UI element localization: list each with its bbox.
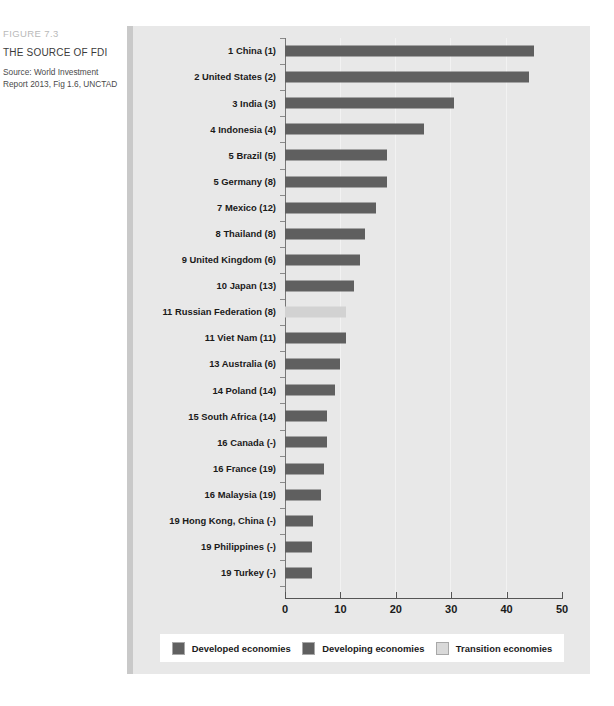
category-tick: [280, 482, 285, 483]
value-tick: [396, 592, 397, 599]
bar-track: [285, 482, 590, 508]
bar-category-label: 11 Russian Federation (8): [133, 307, 285, 316]
figure-caption: FIGURE 7.3 THE SOURCE OF FDI Source: Wor…: [3, 28, 121, 90]
bar-track: [285, 299, 590, 325]
bar-track: [285, 325, 590, 351]
category-tick: [280, 351, 285, 352]
legend-label-developing: Developing economies: [322, 643, 424, 654]
value-tick-label: 10: [334, 603, 346, 615]
category-tick: [280, 403, 285, 404]
bar-developed: [285, 437, 327, 448]
bar-track: [285, 456, 590, 482]
bar-developing: [285, 124, 424, 135]
figure-source: Source: World Investment Report 2013, Fi…: [3, 67, 121, 90]
bar-category-label: 5 Brazil (5): [133, 151, 285, 160]
bar-row: 16 France (19): [133, 456, 590, 482]
bar-track: [285, 351, 590, 377]
bar-developing: [285, 202, 376, 213]
bar-category-label: 19 Turkey (-): [133, 568, 285, 577]
bar-developing: [285, 150, 387, 161]
bar-row: 11 Viet Nam (11): [133, 325, 590, 351]
category-tick: [280, 534, 285, 535]
bar-track: [285, 221, 590, 247]
bar-row: 19 Philippines (-): [133, 534, 590, 560]
legend-swatch-transition-icon: [436, 642, 449, 655]
bar-category-label: 9 United Kingdom (6): [133, 255, 285, 264]
bar-row: 10 Japan (13): [133, 273, 590, 299]
bar-row: 11 Russian Federation (8): [133, 299, 590, 325]
bar-row: 15 South Africa (14): [133, 403, 590, 429]
bar-row: 16 Canada (-): [133, 429, 590, 455]
category-tick: [280, 38, 285, 39]
value-tick-label: 50: [556, 603, 568, 615]
bar-developed: [285, 359, 340, 370]
category-tick: [280, 221, 285, 222]
bar-category-label: 16 Malaysia (19): [133, 490, 285, 499]
bar-category-label: 13 Australia (6): [133, 359, 285, 368]
category-tick: [280, 456, 285, 457]
legend-swatch-developed-icon: [172, 642, 185, 655]
bar-track: [285, 508, 590, 534]
bar-row: 9 United Kingdom (6): [133, 247, 590, 273]
bar-developed: [285, 280, 354, 291]
category-tick: [280, 430, 285, 431]
legend-swatch-developing-icon: [302, 642, 315, 655]
bar-track: [285, 38, 590, 64]
bar-developing: [285, 567, 312, 578]
bar-developing: [285, 411, 327, 422]
bar-developed: [285, 254, 360, 265]
category-tick: [280, 377, 285, 378]
bar-developing: [285, 98, 454, 109]
bar-developed: [285, 72, 529, 83]
value-tick-label: 40: [500, 603, 512, 615]
bar-category-label: 8 Thailand (8): [133, 229, 285, 238]
bar-track: [285, 429, 590, 455]
bar-track: [285, 168, 590, 194]
bar-row: 5 Germany (8): [133, 168, 590, 194]
bar-track: [285, 195, 590, 221]
bar-developing: [285, 515, 313, 526]
figure-source-line-1: Source: World Investment: [3, 67, 121, 79]
category-tick: [280, 560, 285, 561]
bar-category-label: 10 Japan (13): [133, 281, 285, 290]
bar-category-label: 16 France (19): [133, 464, 285, 473]
bar-developing: [285, 46, 534, 57]
bar-developing: [285, 541, 312, 552]
category-tick: [280, 64, 285, 65]
bar-track: [285, 534, 590, 560]
legend-label-developed: Developed economies: [192, 643, 291, 654]
bar-track: [285, 377, 590, 403]
value-tick-label: 30: [445, 603, 457, 615]
bar-category-label: 2 United States (2): [133, 72, 285, 81]
legend-item-developing: Developing economies: [302, 642, 424, 655]
bar-row: 19 Hong Kong, China (-): [133, 508, 590, 534]
bar-row: 7 Mexico (12): [133, 195, 590, 221]
category-tick: [280, 90, 285, 91]
bar-row: 3 India (3): [133, 90, 590, 116]
bar-row: 1 China (1): [133, 38, 590, 64]
legend-label-transition: Transition economies: [456, 643, 552, 654]
bar-developing: [285, 489, 321, 500]
value-tick: [507, 592, 508, 599]
bar-developed: [285, 463, 324, 474]
category-tick: [280, 299, 285, 300]
bar-developing: [285, 228, 365, 239]
bar-row: 13 Australia (6): [133, 351, 590, 377]
bar-transition: [285, 306, 346, 317]
bar-category-label: 19 Philippines (-): [133, 542, 285, 551]
bar-developed: [285, 176, 387, 187]
category-tick: [280, 142, 285, 143]
figure-title: THE SOURCE OF FDI: [3, 47, 121, 58]
category-tick: [280, 325, 285, 326]
bar-row: 5 Brazil (5): [133, 142, 590, 168]
value-tick-label: 20: [390, 603, 402, 615]
bar-row: 8 Thailand (8): [133, 221, 590, 247]
bar-row: 4 Indonesia (4): [133, 116, 590, 142]
bar-track: [285, 64, 590, 90]
value-tick-label: 0: [282, 603, 288, 615]
bar-category-label: 11 Viet Nam (11): [133, 333, 285, 342]
bar-developed: [285, 385, 335, 396]
category-tick: [280, 247, 285, 248]
category-tick: [280, 116, 285, 117]
category-tick: [280, 508, 285, 509]
